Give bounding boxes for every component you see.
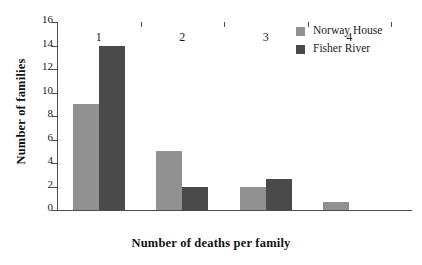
bar <box>73 104 99 210</box>
y-tick-label: 0 <box>48 202 54 213</box>
y-tick-label: 12 <box>42 61 53 72</box>
x-tick-mark <box>391 22 392 27</box>
y-axis-title: Number of families <box>14 37 29 187</box>
x-axis-line <box>57 210 412 211</box>
bar <box>156 151 182 210</box>
y-tick-label: 4 <box>48 155 54 166</box>
bar-chart: 0246810121416 1234 Number of families Nu… <box>0 0 422 265</box>
x-tick-mark <box>141 22 142 27</box>
bar <box>323 202 349 210</box>
legend-swatch-icon <box>296 45 305 54</box>
x-tick-mark <box>224 22 225 27</box>
legend-item: Norway House <box>296 23 382 39</box>
bar <box>240 187 266 211</box>
y-tick-label: 16 <box>42 14 53 25</box>
x-tick-label: 1 <box>96 31 102 43</box>
bar <box>266 179 292 210</box>
x-axis-title: Number of deaths per family <box>0 236 422 251</box>
x-tick-label: 2 <box>179 31 185 43</box>
legend-label: Fisher River <box>313 43 370 55</box>
legend-swatch-icon <box>296 27 305 36</box>
y-tick-label: 8 <box>48 108 54 119</box>
x-tick-label: 3 <box>263 31 269 43</box>
bar <box>182 187 208 211</box>
y-tick-label: 10 <box>42 85 53 96</box>
y-tick-label: 2 <box>48 179 54 190</box>
y-tick-label: 14 <box>42 38 53 49</box>
bar <box>99 46 125 211</box>
legend: Norway HouseFisher River <box>296 23 382 59</box>
legend-label: Norway House <box>313 25 382 37</box>
x-tick-mark <box>57 22 58 27</box>
y-tick-label: 6 <box>48 132 54 143</box>
legend-item: Fisher River <box>296 41 382 57</box>
